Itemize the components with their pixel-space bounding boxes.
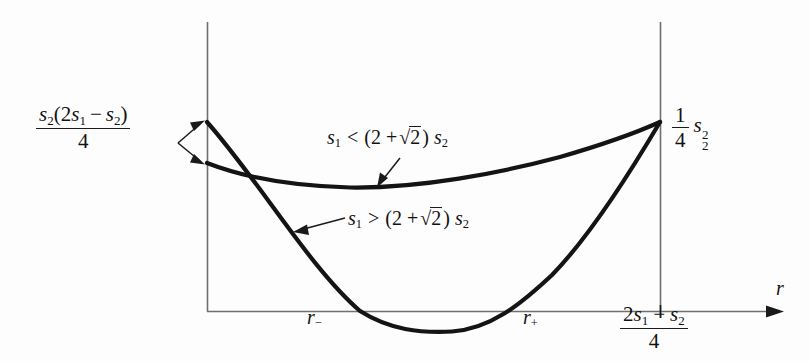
- symbol-s: s: [39, 102, 47, 126]
- label-left-axis-value: s2(2s1−s2) 4: [36, 103, 130, 152]
- operator-minus: −: [86, 102, 106, 126]
- fraction-left-value: s2(2s1−s2) 4: [36, 103, 130, 152]
- paren-close: ): [120, 102, 127, 126]
- symbol-s: s: [694, 113, 702, 137]
- plot-canvas: [0, 0, 810, 361]
- tick-label-r-plus: r+: [523, 307, 538, 330]
- subscript-2: 2: [442, 136, 448, 150]
- math-figure: s2(2s1−s2) 4 1 4 s22 s1<(2 +√2)s2 s1>(2 …: [0, 0, 810, 361]
- x-axis-arrowhead: [766, 306, 784, 318]
- fraction-numerator: s2(2s1−s2): [36, 103, 130, 129]
- symbol-r: r: [776, 277, 784, 299]
- tick-label-r-minus: r−: [307, 307, 322, 330]
- subscript-1: 1: [79, 113, 86, 128]
- symbol-s: s: [455, 207, 463, 229]
- symbol-s: s: [348, 207, 356, 229]
- paren-close: ): [442, 207, 450, 229]
- paren-open: (2: [54, 102, 72, 126]
- radicand: 2: [409, 126, 421, 148]
- fraction-numerator: 1: [672, 104, 689, 128]
- paren-open-two-plus: (2 +: [385, 207, 418, 229]
- label-bottom-right-axis-value: 2s1−s2 4: [620, 303, 688, 352]
- symbol-s: s: [434, 126, 442, 148]
- operator-minus: −: [648, 302, 670, 326]
- subscript-2: 2: [463, 217, 469, 231]
- label-right-axis-value: 1 4 s22: [672, 104, 712, 151]
- fraction-denominator: 4: [620, 329, 688, 352]
- symbol-s: s: [670, 302, 678, 326]
- square-root-group: √2: [397, 126, 421, 148]
- left-value-leader-arrows: [178, 121, 205, 165]
- paren-open-two-plus: (2 +: [364, 126, 397, 148]
- label-lower-curve-condition: s1>(2 +√2)s2: [348, 207, 469, 231]
- fraction-denominator: 4: [36, 129, 130, 152]
- coefficient-2: 2: [623, 302, 634, 326]
- fraction-one-quarter: 1 4: [672, 104, 689, 151]
- fraction-numerator: 2s1−s2: [620, 303, 688, 329]
- symbol-s: s: [634, 302, 642, 326]
- subscript-plus: +: [531, 316, 538, 330]
- paren-close: ): [421, 126, 429, 148]
- fraction-bottom-right-value: 2s1−s2 4: [620, 303, 688, 352]
- axis-label-r: r: [776, 278, 784, 299]
- radicand: 2: [430, 207, 442, 229]
- subscript-2: 2: [678, 313, 685, 328]
- lower-curve-leader-arrow: [293, 218, 345, 235]
- square-root-group: √2: [418, 207, 442, 229]
- symbol-s: s: [106, 102, 114, 126]
- symbol-r: r: [307, 306, 315, 328]
- upper-curve-leader-arrow: [377, 158, 400, 188]
- fraction-denominator: 4: [672, 128, 689, 151]
- symbol-s: s: [327, 126, 335, 148]
- superscript-2: 2: [702, 128, 709, 142]
- relation-greater-than: >: [362, 207, 385, 229]
- label-upper-curve-condition: s1<(2 +√2)s2: [327, 126, 448, 150]
- subscript-minus: −: [315, 316, 322, 330]
- symbol-r: r: [523, 306, 531, 328]
- relation-less-than: <: [341, 126, 364, 148]
